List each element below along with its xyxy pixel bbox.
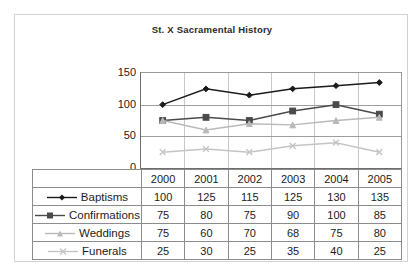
data-point-diamond-marker [246, 92, 252, 98]
table-cell-value: 100 [141, 188, 184, 206]
data-point-diamond-marker [203, 86, 209, 92]
table-cell-value: 30 [185, 242, 228, 260]
row-label-text: Baptisms [81, 191, 128, 203]
legend-marker-triangle-icon [44, 228, 76, 239]
plot-area [140, 72, 402, 169]
legend-marker-diamond-icon [46, 192, 78, 203]
y-tick-label: 50 [124, 129, 136, 141]
table-cell-value: 100 [315, 206, 358, 224]
column-header-year: 2005 [358, 170, 401, 188]
row-label-text: Confirmations [69, 209, 140, 221]
table-row: Baptisms100125115125130135 [33, 188, 402, 206]
column-header-year: 2002 [228, 170, 271, 188]
data-point-diamond-marker [376, 80, 382, 86]
table-cell-value: 125 [185, 188, 228, 206]
table-cell-value: 35 [271, 242, 314, 260]
row-label-funerals: Funerals [33, 242, 142, 260]
column-header-year: 2004 [315, 170, 358, 188]
series-baptisms [160, 80, 382, 108]
row-label-text: Funerals [82, 245, 127, 257]
column-header-year: 2000 [141, 170, 184, 188]
legend-marker-square-icon [34, 210, 66, 221]
table-cell-value: 80 [185, 206, 228, 224]
column-header-year: 2003 [271, 170, 314, 188]
data-point-square-marker [203, 114, 209, 120]
table-row: Confirmations7580759010085 [33, 206, 402, 224]
table-header-row: 200020012002200320042005 [33, 170, 402, 188]
table-cell-value: 25 [228, 242, 271, 260]
table-cell-value: 85 [358, 206, 401, 224]
table-cell-value: 75 [141, 206, 184, 224]
table-cell-value: 125 [271, 188, 314, 206]
table-cell-value: 60 [185, 224, 228, 242]
data-point-diamond-marker [290, 86, 296, 92]
table-cell-value: 115 [228, 188, 271, 206]
table-corner-cell [33, 170, 142, 188]
series-funerals [160, 140, 382, 155]
table-row: Weddings756070687580 [33, 224, 402, 242]
table-body: Baptisms100125115125130135Confirmations7… [33, 188, 402, 260]
table-cell-value: 25 [141, 242, 184, 260]
chart-frame: St. X Sacramental History 050100150 2000… [14, 14, 408, 262]
table-cell-value: 68 [271, 224, 314, 242]
column-header-year: 2001 [185, 170, 228, 188]
row-label-baptisms: Baptisms [33, 188, 142, 206]
chart-title: St. X Sacramental History [15, 24, 409, 35]
row-label-text: Weddings [79, 227, 130, 239]
y-tick-label: 150 [118, 66, 136, 78]
data-point-square-marker [333, 102, 339, 108]
series-layer [141, 73, 401, 168]
table-cell-value: 25 [358, 242, 401, 260]
table-cell-value: 70 [228, 224, 271, 242]
data-point-diamond-marker [333, 83, 339, 89]
y-tick-label: 100 [118, 98, 136, 110]
row-label-confirmations: Confirmations [33, 206, 142, 224]
series-weddings [160, 114, 382, 132]
data-point-diamond-marker [160, 102, 166, 108]
table-cell-value: 80 [358, 224, 401, 242]
table-cell-value: 40 [315, 242, 358, 260]
legend-marker-cross-icon [47, 246, 79, 257]
table-cell-value: 90 [271, 206, 314, 224]
table-cell-value: 135 [358, 188, 401, 206]
table-head: 200020012002200320042005 [33, 170, 402, 188]
table-cell-value: 75 [141, 224, 184, 242]
y-axis: 050100150 [104, 72, 136, 169]
table-cell-value: 75 [315, 224, 358, 242]
table-cell-value: 75 [228, 206, 271, 224]
plot-wrapper: 050100150 [140, 72, 402, 184]
data-table: 200020012002200320042005 Baptisms1001251… [32, 169, 402, 260]
table-row: Funerals253025354025 [33, 242, 402, 260]
table-cell-value: 130 [315, 188, 358, 206]
row-label-weddings: Weddings [33, 224, 142, 242]
data-point-square-marker [290, 108, 296, 114]
